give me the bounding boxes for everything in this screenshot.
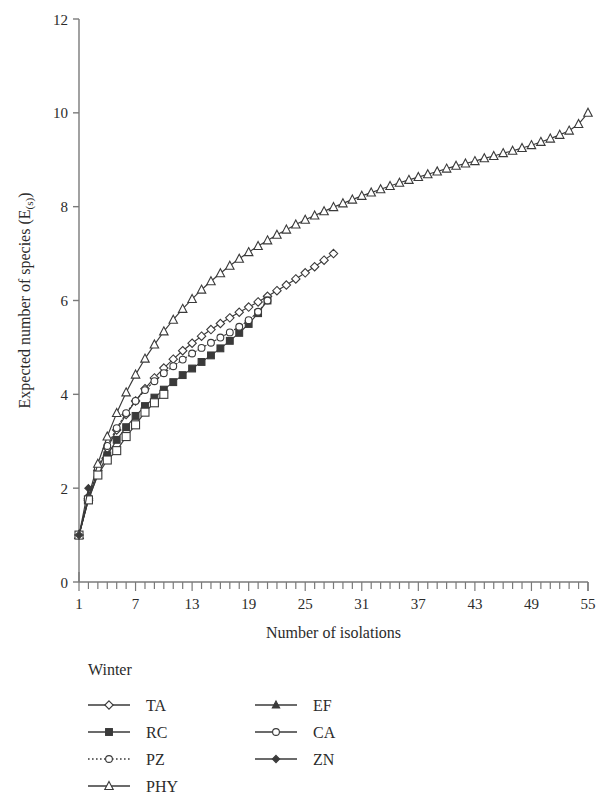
open-diamond-marker <box>282 281 290 289</box>
open-square-marker <box>141 408 149 416</box>
filled-square-marker <box>132 413 139 420</box>
y-axis-tick-label: 10 <box>53 105 68 121</box>
open-triangle-marker <box>235 254 243 262</box>
open-circle-marker <box>217 334 224 341</box>
y-axis-title-tail: ) <box>16 193 34 198</box>
open-square-marker <box>160 390 168 398</box>
open-circle-marker <box>273 729 280 736</box>
open-circle-marker <box>132 398 139 405</box>
filled-square-marker <box>189 365 196 372</box>
legend-item-rc[interactable]: RC <box>88 724 167 741</box>
data-series-group <box>75 108 592 539</box>
open-circle-marker <box>198 344 205 351</box>
legend-label-rc: RC <box>146 724 167 741</box>
x-axis-tick-label: 1 <box>75 596 83 612</box>
filled-square-marker <box>217 345 224 352</box>
series-ta <box>75 249 338 539</box>
y-axis-tick-label: 0 <box>61 575 69 591</box>
open-diamond-marker <box>310 263 318 271</box>
open-triangle-marker <box>320 207 328 215</box>
open-circle-marker <box>255 308 262 315</box>
open-square-marker <box>113 447 121 455</box>
open-circle-marker <box>208 339 215 346</box>
legend-item-zn[interactable]: ZN <box>255 751 335 768</box>
y-axis-title-group: Expected number of species (E(s)) <box>16 193 36 409</box>
x-axis-tick-label: 19 <box>241 596 256 612</box>
series-phy <box>75 108 592 538</box>
legend-title: Winter <box>88 661 132 678</box>
open-circle-marker <box>113 425 120 432</box>
open-square-marker <box>150 399 158 407</box>
filled-square-marker <box>170 379 177 386</box>
legend-item-ef[interactable]: EF <box>255 697 332 714</box>
filled-square-marker <box>123 424 130 431</box>
open-diamond-marker <box>207 325 215 333</box>
open-triangle-marker <box>282 225 290 233</box>
legend-item-phy[interactable]: PHY <box>88 778 178 794</box>
filled-diamond-marker <box>272 755 279 762</box>
open-circle-marker <box>236 323 243 330</box>
x-axis-tick-label: 13 <box>185 596 200 612</box>
open-triangle-marker <box>112 409 120 417</box>
axes-group: 024681012171319253137434955 <box>53 12 596 613</box>
y-axis-title-main: Expected number of species (E <box>16 209 34 408</box>
series-line-zn <box>79 488 88 535</box>
open-square-marker <box>103 456 111 464</box>
legend-group: WinterTARCPZPHYEFCAZN <box>88 661 336 794</box>
figure-container: 024681012171319253137434955 Number of is… <box>0 0 614 794</box>
open-circle-marker <box>264 297 271 304</box>
chart-canvas: 024681012171319253137434955 Number of is… <box>0 0 614 794</box>
open-diamond-marker <box>301 269 309 277</box>
filled-square-marker <box>179 372 186 379</box>
open-triangle-marker <box>565 126 573 134</box>
open-triangle-marker <box>273 230 281 238</box>
y-axis-title: Expected number of species (E(s)) <box>16 193 36 409</box>
open-circle-marker <box>179 356 186 363</box>
legend-item-ca[interactable]: CA <box>255 724 336 741</box>
legend-label-ta: TA <box>146 697 166 714</box>
open-triangle-marker <box>310 211 318 219</box>
open-triangle-marker <box>244 248 252 256</box>
x-axis-tick-label: 55 <box>581 596 596 612</box>
legend-label-ca: CA <box>313 724 336 741</box>
open-circle-marker <box>160 370 167 377</box>
x-axis-tick-label: 31 <box>354 596 369 612</box>
filled-square-marker <box>226 337 233 344</box>
open-triangle-marker <box>254 241 262 249</box>
open-triangle-marker <box>301 215 309 223</box>
series-ca <box>75 390 168 539</box>
legend-item-pz[interactable]: PZ <box>88 751 165 768</box>
series-line-phy <box>79 113 588 535</box>
legend-label-zn: ZN <box>313 751 335 768</box>
open-diamond-marker <box>254 298 262 306</box>
open-circle-marker <box>123 410 130 417</box>
open-diamond-marker <box>226 314 234 322</box>
open-diamond-marker <box>320 256 328 264</box>
x-axis-tick-label: 37 <box>411 596 427 612</box>
open-circle-marker <box>189 350 196 357</box>
open-triangle-marker <box>207 277 215 285</box>
legend-label-pz: PZ <box>146 751 165 768</box>
y-axis-title-subscript: (s) <box>23 198 36 210</box>
open-triangle-marker <box>292 220 300 228</box>
legend-label-phy: PHY <box>146 778 178 794</box>
y-axis-tick-label: 6 <box>61 293 69 309</box>
legend-item-ta[interactable]: TA <box>88 697 166 714</box>
series-line-ca <box>79 394 164 535</box>
open-diamond-marker <box>329 249 337 257</box>
open-square-marker <box>122 433 130 441</box>
open-square-marker <box>132 421 140 429</box>
open-triangle-marker <box>226 261 234 269</box>
open-triangle-marker <box>131 370 139 378</box>
open-circle-marker <box>151 378 158 385</box>
x-axis-tick-label: 43 <box>467 596 482 612</box>
open-square-marker <box>94 471 102 479</box>
series-line-ta <box>79 254 334 536</box>
open-diamond-marker <box>235 308 243 316</box>
axis-labels-group: Number of isolationsExpected number of s… <box>16 193 401 641</box>
series-rc <box>76 297 271 538</box>
y-axis-tick-label: 4 <box>61 387 69 403</box>
filled-square-marker <box>198 359 205 366</box>
open-circle-marker <box>142 387 149 394</box>
open-diamond-marker <box>244 303 252 311</box>
